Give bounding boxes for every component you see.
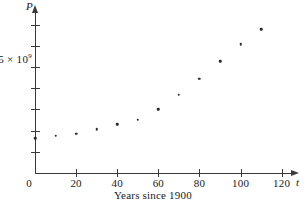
y-tick-6 [31, 46, 40, 47]
origin-tick-label: 0 [26, 177, 32, 189]
y-tick-1 [31, 152, 40, 153]
data-point [198, 77, 201, 80]
figure-caption: Years since 1900 [0, 189, 306, 201]
x-tick-100 [241, 169, 242, 177]
y-tick-3 [31, 109, 40, 110]
x-tick-label-120: 120 [273, 177, 290, 189]
x-tick-label-100: 100 [232, 177, 249, 189]
x-tick-label-20: 20 [70, 177, 81, 189]
data-point [260, 28, 263, 31]
y-tick-2 [31, 131, 40, 132]
data-point [178, 93, 181, 96]
y-tick-mantissa: 5 × 10 [0, 53, 28, 65]
data-point [116, 123, 119, 126]
data-point [137, 118, 140, 121]
x-tick-label-80: 80 [194, 177, 205, 189]
x-axis-line [35, 173, 294, 174]
y-tick-5 [31, 67, 40, 68]
x-tick-40 [117, 169, 118, 177]
x-tick-20 [76, 169, 77, 177]
data-point [54, 135, 57, 138]
data-point [75, 132, 78, 135]
y-tick-7 [31, 25, 40, 26]
x-tick-60 [158, 169, 159, 177]
x-tick-label-40: 40 [112, 177, 123, 189]
data-point [157, 108, 160, 111]
y-tick-exponent: 9 [28, 52, 32, 60]
x-axis-label: t [296, 176, 299, 188]
y-axis-label: P [26, 0, 33, 12]
data-point [34, 137, 37, 140]
data-point [219, 60, 222, 63]
x-tick-80 [199, 169, 200, 177]
x-tick-120 [282, 169, 283, 177]
data-point [239, 43, 242, 46]
scatter-plot-figure: P t 0 5 × 109 20406080100120 Years since… [0, 0, 306, 205]
y-tick-label-5e9: 5 × 109 [0, 52, 32, 65]
y-tick-4 [31, 88, 40, 89]
x-tick-label-60: 60 [153, 177, 164, 189]
y-axis-line [35, 12, 36, 174]
data-point [95, 128, 98, 131]
